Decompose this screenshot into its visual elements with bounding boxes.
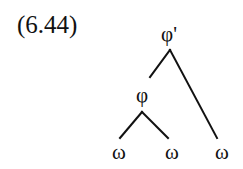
- branch-inner-left: [120, 112, 142, 138]
- node-inner: φ: [136, 83, 148, 107]
- branch-root-left: [150, 50, 170, 77]
- leaf-3: ω: [215, 140, 229, 164]
- branch-inner-right: [142, 112, 168, 138]
- tree-branches: [120, 50, 217, 138]
- node-root: φ': [161, 22, 177, 46]
- prosodic-tree: φ' φ ω ω ω: [0, 0, 243, 169]
- branch-root-right: [170, 50, 217, 138]
- leaf-1: ω: [112, 140, 126, 164]
- leaf-2: ω: [165, 140, 179, 164]
